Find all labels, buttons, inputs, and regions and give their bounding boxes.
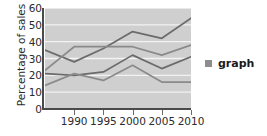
x-tick-label: 2010: [171, 115, 211, 128]
y-tick-label: 50: [18, 20, 42, 30]
y-tick-label: 60: [18, 3, 42, 13]
legend-swatch-icon: [205, 60, 212, 67]
y-tick-label: 10: [18, 87, 42, 97]
y-tick-label: 40: [18, 37, 42, 47]
y-axis-tick-labels: 0102030405060: [18, 8, 42, 109]
y-tick-label: 20: [18, 70, 42, 80]
y-axis-line: [42, 8, 44, 109]
y-tick-label: 0: [18, 104, 42, 114]
legend: graph: [205, 58, 254, 69]
plot-svg: [45, 8, 191, 109]
plot-area: [45, 8, 191, 109]
y-tick-label: 30: [18, 54, 42, 64]
gridlines: [45, 8, 191, 92]
x-axis-tick-labels: 19901995200020052010: [45, 115, 195, 129]
line-chart-figure: Percentage of sales 0102030405060 199019…: [0, 0, 267, 136]
legend-label: graph: [218, 58, 254, 69]
